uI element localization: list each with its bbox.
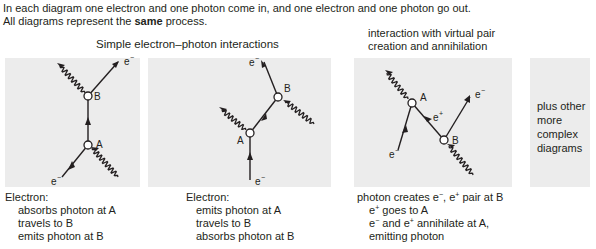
vertex-b: [84, 92, 92, 100]
caption-text: and e: [379, 217, 410, 229]
outgoing-electron-line: [264, 62, 278, 97]
charge-label: −: [481, 87, 485, 94]
caption-title: Electron:: [5, 191, 116, 204]
vertex-a: [84, 141, 92, 149]
outgoing-electron-line: [88, 62, 118, 96]
other-diagrams-note: plus other more complex diagrams: [537, 99, 585, 155]
diagram-3: A B e − e + e −: [385, 70, 485, 175]
other-line: diagrams: [537, 141, 585, 155]
incoming-electron-line: [398, 103, 412, 150]
charge-label: −: [130, 54, 134, 61]
positron-line: [412, 103, 444, 140]
vertex-label-a: A: [96, 139, 103, 150]
caption-line: absorbs photon at A: [5, 204, 116, 217]
charge-label: −: [261, 174, 265, 181]
arrow-icon: [385, 70, 393, 75]
caption-line: e+ goes to A: [357, 204, 503, 217]
vertex-label-a: A: [420, 92, 427, 103]
outgoing-photon-line: [387, 73, 408, 99]
incoming-photon-line: [285, 101, 314, 124]
vertex-label-a: A: [237, 135, 244, 146]
caption-line: travels to B: [186, 217, 294, 230]
caption-line: emits photon at B: [5, 230, 116, 243]
caption-line: e− and e+ annihilate at A,: [357, 217, 503, 230]
caption-line: absorbs photon at B: [186, 230, 294, 243]
charge-label: +: [439, 110, 443, 117]
caption-line: emitting photon: [357, 230, 503, 243]
caption-text: photon creates e: [357, 191, 439, 203]
outgoing-photon-line: [60, 66, 85, 93]
propagator-line: [250, 97, 278, 133]
caption-line: travels to B: [5, 217, 116, 230]
outgoing-electron-line: [444, 97, 470, 140]
caption-line: emits photon at A: [186, 204, 294, 217]
diagram-2: A B e − e −: [219, 55, 314, 187]
other-line: complex: [537, 127, 585, 141]
incoming-photon-line: [449, 146, 473, 175]
caption-text: pair at B: [459, 191, 503, 203]
caption-line: photon creates e−, e+ pair at B: [357, 191, 503, 204]
vertex-label-b: B: [94, 91, 101, 102]
other-line: plus other: [537, 99, 585, 113]
outgoing-photon-line: [222, 110, 246, 130]
arrow-icon: [283, 100, 291, 104]
caption-title: Electron:: [186, 191, 294, 204]
vertex-b: [274, 93, 282, 101]
caption-text: , e: [443, 191, 455, 203]
caption-diagram-3: photon creates e−, e+ pair at B e+ goes …: [357, 191, 503, 243]
incoming-photon-line: [92, 148, 118, 177]
arrow-icon: [85, 117, 91, 125]
vertex-label-b: B: [452, 135, 459, 146]
caption-text: goes to A: [379, 204, 428, 216]
arrow-icon: [247, 152, 253, 160]
vertex-a: [408, 99, 416, 107]
charge-label: −: [255, 55, 259, 62]
incoming-electron-line: [62, 145, 88, 177]
vertex-a: [246, 129, 254, 137]
vertex-label-b: B: [284, 83, 291, 94]
diagram-1: A B e − e −: [51, 54, 134, 187]
vertex-b: [440, 136, 448, 144]
caption-diagram-1: Electron: absorbs photon at A travels to…: [5, 191, 116, 243]
charge-label: −: [395, 147, 399, 154]
caption-text: annihilate at A,: [414, 217, 489, 229]
caption-diagram-2: Electron: emits photon at A travels to B…: [186, 191, 294, 243]
charge-label: −: [57, 174, 61, 181]
other-line: more: [537, 113, 585, 127]
